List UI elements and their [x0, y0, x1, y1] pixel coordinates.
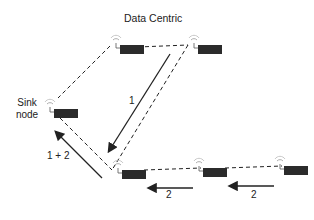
sensor-node-bottom-middle [194, 158, 227, 177]
sink-node [45, 99, 78, 118]
sensor-node-bottom-left [113, 160, 146, 179]
sensor-node-top-left [111, 35, 144, 54]
sensor-node-top-right [189, 35, 222, 54]
sensor-node-bottom-right [275, 156, 308, 175]
network-diagram [0, 0, 314, 220]
dashed-links [58, 45, 282, 170]
